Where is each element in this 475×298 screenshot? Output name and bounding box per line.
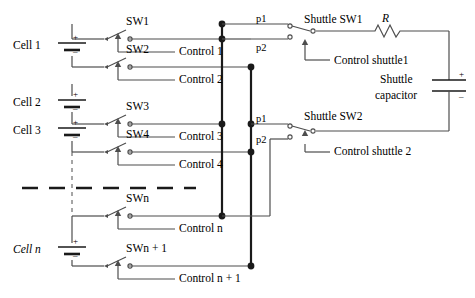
shuttle-sw2-p1-label: p1: [256, 114, 267, 125]
shuttle-sw1-p1-label: p1: [256, 14, 267, 25]
control-n-label: Control n: [179, 223, 223, 235]
switch-n-label: SWn: [126, 193, 149, 205]
shuttle-capacitor-label-line1: Shuttle: [380, 74, 413, 86]
control-shuttle-1-label: Control shuttle1: [334, 55, 408, 67]
cell-2-battery: [58, 100, 86, 107]
control-3-label: Control 3: [179, 131, 223, 143]
cell-3-label: Cell 3: [13, 125, 41, 137]
shuttle-sw1-label: Shuttle SW1: [304, 14, 362, 26]
cell-3-minus-sign: –: [73, 132, 78, 141]
cell-1-battery: [58, 43, 86, 50]
cell-1-minus-sign: –: [73, 47, 78, 56]
cell-3-plus-sign: +: [73, 118, 78, 127]
control-n-plus-1-label: Control n + 1: [179, 273, 241, 285]
control-shuttle-2-label: Control shuttle 2: [334, 146, 411, 158]
cell-1-label: Cell 1: [13, 40, 41, 52]
switch-1-label: SW1: [126, 16, 149, 28]
cell-n-battery: [58, 247, 86, 254]
capacitor-plus-sign: +: [459, 70, 464, 79]
switch-4-label: SW4: [126, 129, 149, 141]
cell-2-minus-sign: –: [73, 104, 78, 113]
cell-3-battery: [58, 128, 86, 135]
shuttle-capacitor: [432, 31, 466, 131]
resistor-label: R: [382, 13, 389, 25]
switch-row-2: [72, 58, 251, 80]
switch-3-label: SW3: [126, 101, 149, 113]
control-2-label: Control 2: [179, 74, 223, 86]
cell-n-plus-sign: +: [73, 237, 78, 246]
switch-2-label: SW2: [126, 44, 149, 56]
shuttle-capacitor-label-line2: capacitor: [375, 90, 417, 102]
switch-row-4: [72, 143, 251, 165]
shuttle-sw2-p2-label: p2: [256, 135, 267, 146]
control-1-label: Control 1: [179, 46, 223, 58]
switch-n-plus-1-label: SWn + 1: [126, 243, 167, 255]
figure-root: Cell 1 Cell 2 Cell 3 Cell n + – + – + – …: [0, 0, 475, 298]
cell-n-minus-sign: –: [73, 251, 78, 260]
cell-2-plus-sign: +: [73, 90, 78, 99]
capacitor-minus-sign: –: [459, 92, 464, 101]
cell-2-label: Cell 2: [13, 97, 41, 109]
resistor-R: [372, 25, 449, 37]
control-4-label: Control 4: [179, 159, 223, 171]
shuttle-sw1-p2-label: p2: [256, 43, 267, 54]
even-cell-bus: [248, 64, 255, 270]
cell-1-plus-sign: +: [73, 33, 78, 42]
shuttle-sw2-label: Shuttle SW2: [304, 111, 362, 123]
cell-n-label: Cell n: [13, 244, 41, 256]
